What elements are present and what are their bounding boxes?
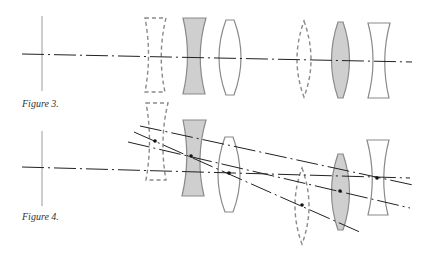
figure-3 (22, 16, 412, 98)
shaded-biconvex-lens (332, 22, 350, 98)
lens-center-dot (189, 154, 193, 158)
tilted-axis-3 (140, 126, 413, 185)
lens-center-dot (227, 171, 231, 175)
dashed-biconvex-lens (297, 21, 311, 97)
lens-center-dot (375, 176, 379, 180)
plain-biconcave-lens (368, 23, 390, 98)
optical-axis (22, 167, 410, 178)
shaded-biconcave-lens (182, 120, 206, 196)
optical-axis (22, 54, 412, 62)
figure-3-caption: Figure 3. (22, 98, 59, 109)
diagram-canvas (0, 0, 432, 253)
plain-biconvex-lens (219, 20, 241, 95)
shaded-biconcave-lens (183, 18, 206, 94)
dashed-biconcave-lens (145, 18, 166, 92)
tilted-axis-1 (134, 132, 362, 233)
dashed-biconcave-lens (146, 103, 168, 180)
lens-center-dot (153, 139, 157, 143)
lens-center-dot (338, 189, 342, 193)
figure-4-caption: Figure 4. (22, 211, 59, 222)
figure-4 (22, 103, 413, 244)
lens-center-dot (300, 203, 304, 207)
